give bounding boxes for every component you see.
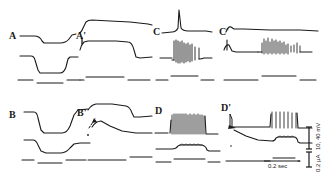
scale-bars xyxy=(264,127,312,167)
panel-b-current-trace xyxy=(22,160,86,163)
current-scale-label: 0.2 µA xyxy=(315,155,321,172)
panel-label-c: C xyxy=(153,27,160,37)
panel-label-a: A xyxy=(9,31,16,41)
panel-bp-voltage-trace-2 xyxy=(92,121,152,133)
panel-label-b-prime: B' xyxy=(77,108,86,118)
panel-cp-current-trace xyxy=(224,76,316,80)
panel-dp-spike-train xyxy=(272,112,296,128)
panel-cp-voltage-trace-2 xyxy=(224,45,258,52)
panel-cp-traces xyxy=(224,27,318,80)
panel-label-d-prime: D' xyxy=(221,103,231,113)
panel-c-spike-burst-upper xyxy=(174,40,199,63)
panel-dp-voltage-trace-2 xyxy=(234,130,312,143)
panel-c-traces xyxy=(156,10,214,80)
panel-c-voltage-trace-1 xyxy=(162,10,212,33)
panel-label-b: B xyxy=(9,110,16,120)
panel-a-voltage-trace-1 xyxy=(20,34,76,43)
panel-label-c-prime: C' xyxy=(219,27,229,37)
panel-bp-current-trace xyxy=(88,157,152,160)
panel-dp-onset-spike xyxy=(230,114,232,126)
time-scale-label: 0.2 sec xyxy=(268,163,287,169)
panel-c-current-trace xyxy=(156,76,214,80)
panel-bp-marker-dot xyxy=(87,134,89,136)
panel-cp-voltage-trace-1 xyxy=(226,27,318,32)
panel-d-step-fall xyxy=(205,116,218,134)
panel-dp-voltage-trace-1 xyxy=(232,114,271,127)
panel-ap-voltage-trace-1 xyxy=(80,20,152,33)
panel-d-subthreshold-trace xyxy=(156,145,220,151)
panel-ap-current-trace xyxy=(80,77,150,80)
panel-ap-traces xyxy=(80,20,152,80)
panel-cp-spike-burst xyxy=(262,38,300,54)
panel-dp-marker-dot xyxy=(230,145,232,147)
panel-dp-traces xyxy=(226,112,312,161)
panel-d-spike-train xyxy=(172,114,204,134)
panel-d-step-rise xyxy=(170,120,171,133)
panel-dp-step-fall xyxy=(297,113,312,128)
panel-d-traces xyxy=(155,114,220,162)
voltage-scale-label: 10, 40 mV xyxy=(315,123,321,150)
panel-ap-voltage-trace-2 xyxy=(80,41,152,58)
panel-a-traces xyxy=(18,34,80,83)
panel-a-voltage-trace-2 xyxy=(20,56,78,73)
panel-label-d: D xyxy=(155,106,162,116)
panel-bp-traces xyxy=(87,104,152,160)
panel-a-current-trace xyxy=(18,80,80,83)
electrophysiology-figure: A A' C C' B B' D D' 0.2 sec 10, 40 mV 0.… xyxy=(0,0,328,174)
panel-bp-voltage-trace-1 xyxy=(88,104,152,117)
panel-d-current-trace xyxy=(156,159,220,162)
panel-b-voltage-trace-2 xyxy=(24,140,90,153)
trace-canvas xyxy=(0,0,328,174)
panel-label-a-prime: A' xyxy=(76,31,86,41)
